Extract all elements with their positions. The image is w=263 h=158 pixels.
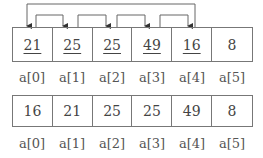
cell-before-5: 8 bbox=[212, 28, 252, 61]
index-label: a[4] bbox=[172, 136, 212, 151]
cell-after-0: 16 bbox=[13, 96, 53, 126]
index-label: a[2] bbox=[92, 70, 132, 85]
cell-after-4: 49 bbox=[172, 96, 212, 126]
arrow-a3-to-a4 bbox=[160, 15, 188, 27]
index-label: a[3] bbox=[132, 136, 172, 151]
cell-value: 8 bbox=[228, 37, 237, 53]
cell-before-3: 49 bbox=[132, 28, 172, 61]
array-before: 21 25 25 49 16 8 bbox=[12, 27, 253, 62]
cell-before-1: 25 bbox=[53, 28, 93, 61]
cell-value: 16 bbox=[183, 37, 201, 53]
cell-value: 25 bbox=[143, 103, 161, 119]
index-labels-after: a[0] a[1] a[2] a[3] a[4] a[5] bbox=[12, 136, 253, 151]
index-label: a[4] bbox=[172, 70, 212, 85]
cell-value: 21 bbox=[63, 103, 81, 119]
cell-before-0: 21 bbox=[13, 28, 53, 61]
index-label: a[0] bbox=[12, 70, 52, 85]
array-after: 16 21 25 25 49 8 bbox=[12, 95, 253, 127]
index-label: a[1] bbox=[52, 70, 92, 85]
cell-after-5: 8 bbox=[212, 96, 252, 126]
cell-value: 21 bbox=[24, 37, 42, 53]
index-labels-before: a[0] a[1] a[2] a[3] a[4] a[5] bbox=[12, 70, 253, 85]
index-label: a[5] bbox=[212, 136, 252, 151]
cell-after-1: 21 bbox=[53, 96, 93, 126]
index-label: a[0] bbox=[12, 136, 52, 151]
index-label: a[3] bbox=[132, 70, 172, 85]
cell-before-4: 16 bbox=[172, 28, 212, 61]
cell-after-3: 25 bbox=[132, 96, 172, 126]
arrow-a2-to-a3 bbox=[117, 15, 145, 27]
index-label: a[2] bbox=[92, 136, 132, 151]
cell-after-2: 25 bbox=[93, 96, 133, 126]
cell-value: 8 bbox=[228, 103, 237, 119]
index-label: a[1] bbox=[52, 136, 92, 151]
cell-value: 25 bbox=[103, 37, 121, 53]
index-label: a[5] bbox=[212, 70, 252, 85]
cell-value: 25 bbox=[63, 37, 81, 53]
shift-arrows bbox=[0, 0, 263, 30]
cell-value: 49 bbox=[143, 37, 161, 53]
cell-before-2: 25 bbox=[93, 28, 133, 61]
cell-value: 25 bbox=[103, 103, 121, 119]
arrow-a1-to-a2 bbox=[78, 15, 106, 27]
cell-value: 49 bbox=[183, 103, 201, 119]
cell-value: 16 bbox=[24, 103, 42, 119]
arrow-a0-to-a1 bbox=[36, 15, 63, 27]
